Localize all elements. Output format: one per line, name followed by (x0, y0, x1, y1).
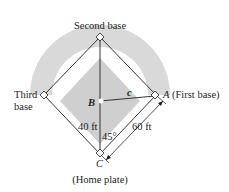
label-point-c: C (96, 158, 104, 169)
label-first-base: (First base) (172, 89, 220, 101)
label-second-base: Second base (74, 20, 127, 31)
label-home-plate: (Home plate) (72, 174, 128, 186)
label-third-base-2: base (14, 101, 33, 112)
point-b-marker (99, 99, 104, 104)
label-segment-c: c (127, 87, 132, 98)
label-point-a: A (162, 89, 170, 100)
label-third-base-1: Third (14, 89, 38, 100)
label-angle-45: 45° (102, 131, 117, 142)
baseball-diamond-diagram: Second base Third base A (First base) B … (0, 0, 229, 192)
label-point-b: B (87, 97, 95, 108)
label-distance-40ft: 40 ft (78, 121, 98, 132)
label-distance-60ft: 60 ft (132, 121, 152, 132)
home-plate-marker (96, 149, 104, 157)
